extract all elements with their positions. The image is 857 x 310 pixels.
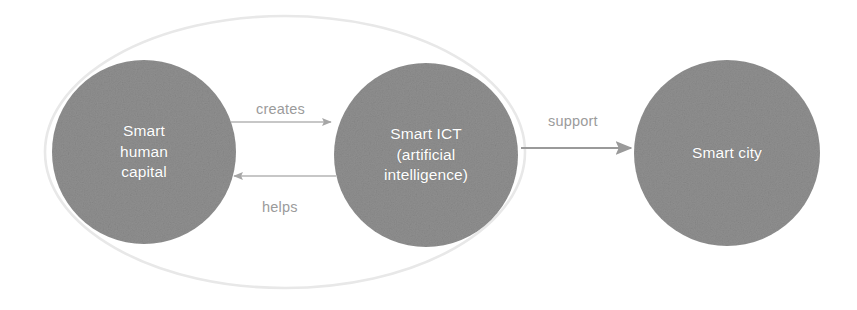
edge-label-support: support [548, 113, 598, 129]
node-circle-smart-city[interactable] [634, 60, 820, 246]
diagram-graphics [0, 0, 857, 310]
node-circle-smart-ict[interactable] [334, 63, 518, 247]
node-circle-smart-human-capital[interactable] [52, 60, 236, 244]
edge-label-helps: helps [262, 199, 298, 215]
edge-label-creates: creates [256, 101, 305, 117]
diagram-canvas: Smart human capital Smart ICT (artificia… [0, 0, 857, 310]
